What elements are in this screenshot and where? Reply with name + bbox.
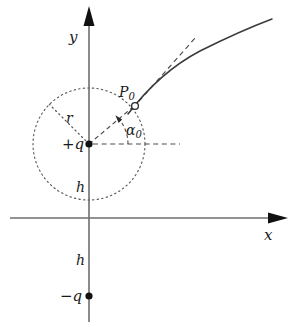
height-upper-label: h (76, 180, 85, 194)
p0-label: P0 (119, 85, 135, 102)
trajectory-curve (128, 19, 272, 114)
height-lower-label: h (76, 253, 85, 267)
negative-charge-label: −q (60, 289, 82, 304)
p0-label-main: P (119, 84, 128, 100)
angle-label: α0 (126, 123, 142, 140)
physics-diagram: y x +q −q r h h P0 α0 (0, 0, 306, 327)
negative-charge-marker (85, 292, 92, 299)
x-axis-label: x (264, 228, 272, 243)
y-axis-label: y (69, 30, 77, 45)
diagram-canvas (0, 0, 306, 327)
x-axis-arrowhead (268, 213, 288, 224)
positive-charge-marker (85, 140, 92, 147)
angle-label-subscript: 0 (135, 129, 141, 140)
p0-marker (132, 103, 139, 110)
radius-label: r (66, 111, 73, 125)
p0-label-subscript: 0 (128, 91, 134, 102)
y-axis-arrowhead (84, 6, 95, 26)
positive-charge-label: +q (62, 137, 84, 152)
